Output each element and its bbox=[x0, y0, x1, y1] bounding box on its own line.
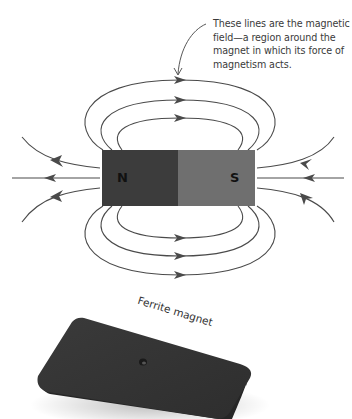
field-lines-top bbox=[85, 80, 275, 150]
field-annotation-text: These lines are the magnetic field—a reg… bbox=[213, 17, 352, 71]
field-lines-left bbox=[12, 137, 100, 222]
field-arrows-top bbox=[174, 76, 186, 122]
field-lines-bottom bbox=[85, 206, 275, 275]
field-lines-right bbox=[257, 137, 344, 222]
field-arrows-right bbox=[300, 159, 315, 205]
ferrite-magnet-photo bbox=[30, 318, 270, 419]
south-pole bbox=[178, 150, 255, 206]
south-pole-label: S bbox=[230, 170, 239, 185]
annotation-pointer bbox=[174, 24, 206, 75]
north-pole-label: N bbox=[117, 170, 128, 185]
north-pole bbox=[102, 150, 178, 206]
